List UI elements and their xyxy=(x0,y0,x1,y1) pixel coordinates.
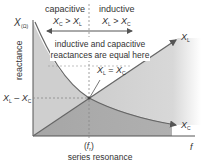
y-axis-symbol: X xyxy=(13,17,21,28)
reactance-diagram: X (Ω) reactance capacitive XC > XL induc… xyxy=(0,0,201,164)
resonance-label: series resonance xyxy=(68,152,133,162)
capacitive-label: capacitive xyxy=(45,4,85,14)
inductive-label: inductive xyxy=(99,4,135,14)
inductive-curve-label: XL xyxy=(180,32,190,43)
capacitive-relation: XC > XL xyxy=(52,16,82,27)
y-axis-label: reactance xyxy=(14,40,24,80)
x-axis-label: f xyxy=(190,142,194,152)
level-label: XL – XC xyxy=(2,93,32,104)
y-axis-unit: (Ω) xyxy=(21,23,28,29)
intersection-point xyxy=(88,97,91,100)
inductive-relation: XL > XC xyxy=(101,16,131,27)
annotation-line-2: reactances are equal here xyxy=(51,50,150,60)
resonance-tick-label: (fr) xyxy=(84,141,94,152)
annotation-line-1: inductive and capacitive xyxy=(55,39,146,49)
equality-label: XL = XC xyxy=(96,65,126,76)
